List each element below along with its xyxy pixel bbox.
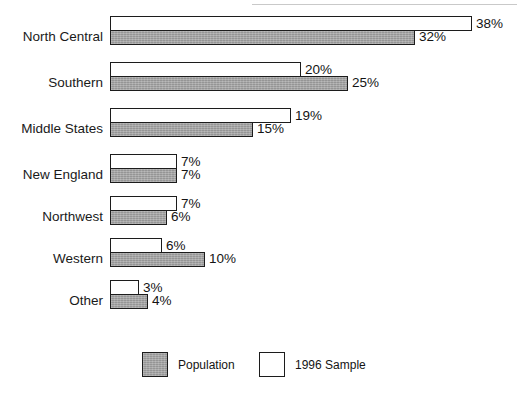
bar-group-other: Other 3% 4% xyxy=(0,280,517,324)
category-label-new-england: New England xyxy=(0,168,103,182)
category-label-northwest: Northwest xyxy=(0,210,103,224)
bar-group-southern: Southern 20% 25% xyxy=(0,62,517,106)
bar-group-middle-states: Middle States 19% 15% xyxy=(0,108,517,152)
bar-value-population-middle-states: 15% xyxy=(253,122,284,136)
legend-item-population: Population xyxy=(142,352,235,377)
bar-value-sample-other: 3% xyxy=(139,281,163,295)
bar-value-population-southern: 25% xyxy=(348,76,379,90)
category-label-western: Western xyxy=(0,252,103,266)
bar-population-other xyxy=(110,294,148,309)
bar-value-sample-north-central: 38% xyxy=(472,17,503,31)
plot-area: North Central 38% 32% Southern 20% xyxy=(0,0,517,335)
legend-swatch-population xyxy=(142,352,168,377)
bar-value-sample-middle-states: 19% xyxy=(291,109,322,123)
bar-group-new-england: New England 7% 7% xyxy=(0,154,517,198)
legend-item-sample: 1996 Sample xyxy=(259,352,366,377)
category-label-southern: Southern xyxy=(0,76,103,90)
bar-value-sample-western: 6% xyxy=(162,239,186,253)
bar-value-sample-southern: 20% xyxy=(301,63,332,77)
bar-value-sample-northwest: 7% xyxy=(177,197,201,211)
bar-population-north-central xyxy=(110,30,415,45)
legend-label-sample: 1996 Sample xyxy=(295,358,366,372)
bar-population-middle-states xyxy=(110,122,253,137)
bar-value-population-western: 10% xyxy=(205,252,236,266)
bar-group-western: Western 6% 10% xyxy=(0,238,517,282)
bar-group-north-central: North Central 38% 32% xyxy=(0,16,517,60)
chart-legend: Population 1996 Sample xyxy=(0,352,517,386)
bar-population-new-england xyxy=(110,168,177,183)
category-label-middle-states: Middle States xyxy=(0,122,103,136)
category-label-north-central: North Central xyxy=(0,30,103,44)
bar-population-southern xyxy=(110,76,348,91)
bar-value-population-new-england: 7% xyxy=(177,168,201,182)
category-label-other: Other xyxy=(0,294,103,308)
bar-population-northwest xyxy=(110,210,167,225)
bar-value-population-northwest: 6% xyxy=(167,210,191,224)
bar-value-sample-new-england: 7% xyxy=(177,155,201,169)
bar-population-western xyxy=(110,252,205,267)
legend-label-population: Population xyxy=(178,358,235,372)
legend-swatch-sample xyxy=(259,352,285,377)
bar-value-population-north-central: 32% xyxy=(415,30,446,44)
bar-group-northwest: Northwest 7% 6% xyxy=(0,196,517,240)
bar-chart: North Central 38% 32% Southern 20% xyxy=(0,0,517,403)
bar-value-population-other: 4% xyxy=(148,294,172,308)
